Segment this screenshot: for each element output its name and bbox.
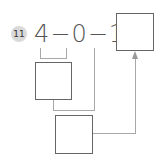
- arrow-vertical: [135, 58, 136, 134]
- connector-from-one: [94, 48, 95, 111]
- connector-join: [53, 110, 95, 111]
- final-step-box[interactable]: [55, 115, 93, 154]
- intermediate-box[interactable]: [35, 62, 72, 100]
- arrow-head-icon: [132, 51, 138, 59]
- arrow-horizontal: [93, 133, 136, 134]
- bracket-bottom: [40, 58, 67, 59]
- problem-number-badge: 11: [11, 26, 27, 42]
- answer-box[interactable]: [116, 13, 154, 51]
